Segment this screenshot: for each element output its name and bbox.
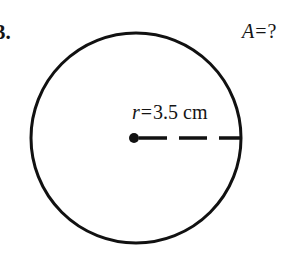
area-equals-sign: = [254, 20, 267, 42]
radius-equals-sign: = [140, 101, 153, 123]
radius-measurement-label: r=3.5 cm [132, 102, 208, 122]
area-question-label: A=? [242, 21, 276, 41]
radius-variable: r [132, 101, 140, 123]
radius-value: 3.5 [153, 101, 178, 123]
area-unknown-value: ? [268, 20, 277, 42]
area-variable: A [242, 20, 254, 42]
problem-number-label: 3. [0, 22, 11, 43]
worksheet-figure-canvas: 3. A=? r=3.5 cm [0, 0, 303, 259]
circle-center-dot [129, 133, 139, 143]
radius-unit: cm [178, 101, 207, 123]
